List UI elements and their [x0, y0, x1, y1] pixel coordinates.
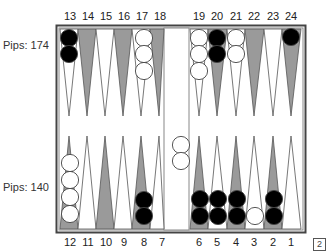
black-checker[interactable]: [191, 190, 208, 207]
point-label-1: 1: [282, 236, 300, 248]
white-checker[interactable]: [135, 29, 152, 46]
black-checker[interactable]: [265, 207, 282, 224]
black-checker[interactable]: [265, 190, 282, 207]
black-checker[interactable]: [191, 207, 208, 224]
point-label-11: 11: [79, 236, 97, 248]
point-label-7: 7: [153, 236, 171, 248]
black-checker[interactable]: [208, 45, 225, 62]
white-checker[interactable]: [190, 45, 207, 62]
black-checker[interactable]: [135, 207, 152, 224]
black-checker[interactable]: [208, 29, 225, 46]
black-checker[interactable]: [209, 190, 226, 207]
white-checker[interactable]: [190, 29, 207, 46]
point-label-10: 10: [97, 236, 115, 248]
white-checker[interactable]: [190, 62, 207, 79]
white-checker[interactable]: [246, 207, 263, 224]
point-label-4: 4: [227, 236, 245, 248]
black-checker[interactable]: [60, 45, 77, 62]
point-label-3: 3: [245, 236, 263, 248]
bar: [164, 28, 189, 230]
backgammon-board: [0, 0, 331, 251]
white-checker[interactable]: [135, 45, 152, 62]
black-checker[interactable]: [209, 207, 226, 224]
black-checker[interactable]: [228, 190, 245, 207]
point-label-12: 12: [61, 236, 79, 248]
point-label-5: 5: [208, 236, 226, 248]
point-label-2: 2: [264, 236, 282, 248]
black-checker[interactable]: [228, 207, 245, 224]
point-label-6: 6: [190, 236, 208, 248]
black-checker[interactable]: [135, 191, 152, 208]
black-checker[interactable]: [282, 28, 299, 45]
white-checker[interactable]: [61, 171, 78, 188]
black-checker[interactable]: [60, 29, 77, 46]
white-checker[interactable]: [61, 205, 78, 222]
white-checker[interactable]: [61, 188, 78, 205]
point-label-9: 9: [115, 236, 133, 248]
doubling-cube[interactable]: 2: [313, 238, 326, 251]
white-checker[interactable]: [135, 62, 152, 79]
point-label-8: 8: [135, 236, 153, 248]
bar-white-checker[interactable]: [172, 152, 189, 169]
bar-white-checker[interactable]: [172, 136, 189, 153]
white-checker[interactable]: [227, 45, 244, 62]
white-checker[interactable]: [227, 29, 244, 46]
white-checker[interactable]: [61, 154, 78, 171]
